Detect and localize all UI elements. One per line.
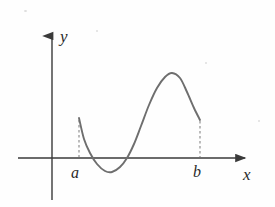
interval-label-b: b: [193, 164, 201, 180]
paper-speck: [24, 10, 27, 12]
x-axis-label: x: [243, 166, 251, 183]
paper-speck: [205, 62, 207, 64]
math-figure: y x a b: [0, 0, 275, 207]
graph-canvas: [0, 0, 275, 207]
interval-label-a: a: [71, 165, 79, 181]
y-axis-label: y: [60, 28, 68, 45]
paper-speck: [96, 30, 98, 32]
paper-speck: [258, 120, 260, 122]
